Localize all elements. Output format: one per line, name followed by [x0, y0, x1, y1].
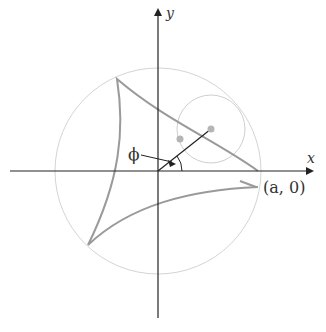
x-axis-label: x	[307, 150, 315, 166]
angle-label: ϕ	[128, 144, 140, 164]
cusp-point-label: (a, 0)	[263, 178, 305, 197]
y-axis-label: y	[165, 5, 175, 21]
center-point	[208, 126, 215, 133]
deltoid-curve	[88, 79, 258, 245]
curve-direction-arrow	[240, 181, 256, 187]
radius-line	[158, 129, 211, 171]
angle-arc	[177, 156, 182, 171]
angle-pointer-head	[168, 160, 176, 167]
deltoid-diagram: y x ϕ (a, 0)	[0, 0, 326, 332]
angle-pointer	[141, 155, 172, 162]
tracing-point	[177, 136, 184, 143]
